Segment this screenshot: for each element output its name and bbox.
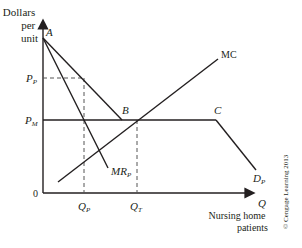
demand-curve-upper [43, 38, 122, 120]
pp-label: PP [25, 72, 38, 86]
nursing-home-market-diagram: Dollars per unit A B C PP PM 0 QP QT MC … [0, 0, 302, 248]
point-b-label: B [122, 104, 129, 116]
mc-label: MC [221, 49, 237, 60]
marginal-revenue-curve [43, 38, 108, 168]
point-c-label: C [214, 104, 222, 116]
x-axis-label: Nursing home patients [209, 210, 269, 233]
mr-label: MRP [110, 165, 132, 179]
copyright-notice: © Cengage Learning 2013 [282, 154, 290, 229]
point-a-label: A [45, 26, 53, 38]
qp-label: QP [78, 200, 91, 214]
qt-label: QT [130, 200, 143, 214]
demand-curve-lower [216, 120, 256, 170]
demand-label: DP [252, 172, 266, 186]
pm-label: PM [24, 114, 39, 128]
x-axis-symbol: Q [258, 197, 266, 209]
y-axis-label: Dollars per unit [3, 6, 38, 44]
origin-label: 0 [33, 188, 38, 199]
